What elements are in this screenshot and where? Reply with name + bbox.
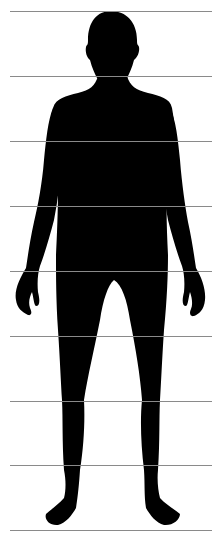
diagram-canvas — [0, 0, 223, 545]
human-silhouette — [16, 11, 206, 525]
body-proportion-diagram — [0, 0, 223, 545]
left-arm — [16, 108, 63, 315]
head — [86, 11, 139, 78]
